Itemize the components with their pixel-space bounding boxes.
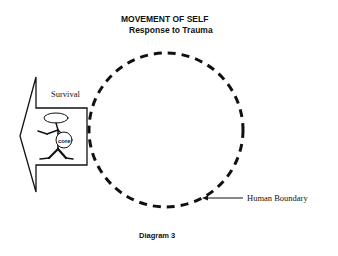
human-boundary-circle: [89, 53, 243, 207]
human-boundary-label: Human Boundary: [247, 193, 308, 203]
survival-label: Survival: [51, 89, 80, 99]
diagram-caption: Diagram 3: [139, 231, 175, 240]
core-label: core: [58, 138, 71, 144]
diagram-canvas: core: [0, 0, 338, 256]
boundary-pointer-arrowhead: [202, 196, 208, 201]
